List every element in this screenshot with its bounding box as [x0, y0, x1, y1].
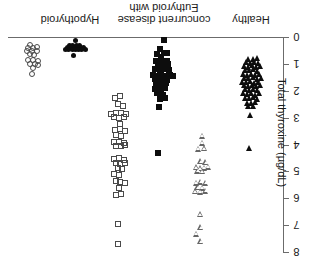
data-point — [156, 104, 162, 110]
data-point — [115, 241, 121, 247]
category-label-healthy: Healthy — [216, 14, 286, 26]
data-point — [200, 133, 206, 139]
data-point — [201, 145, 207, 151]
category-label-euthyroid: concurrent disease Euthyroid with — [112, 2, 216, 26]
data-point — [203, 188, 209, 194]
data-point — [63, 47, 68, 52]
data-point — [115, 221, 121, 227]
data-point — [200, 168, 206, 174]
category-label-line1: Healthy — [216, 14, 286, 26]
data-point — [116, 185, 122, 191]
category-label-line1: Euthyroid with — [112, 2, 216, 14]
data-point — [193, 231, 199, 237]
data-point — [162, 85, 168, 91]
data-point — [122, 180, 128, 186]
data-point — [197, 211, 203, 217]
data-point — [164, 50, 170, 56]
data-point — [205, 164, 211, 170]
data-point — [246, 145, 252, 151]
data-point — [250, 103, 256, 109]
data-point — [35, 62, 41, 68]
y-tick-label: 2 — [291, 85, 302, 96]
data-point — [83, 47, 88, 52]
data-point — [155, 150, 161, 156]
y-axis-title: Total thyroxine (µg/dL) — [276, 78, 288, 228]
data-point — [121, 114, 127, 120]
thyroxine-dot-plot: 012345678 Total thyroxine (µg/dL) Hypoth… — [0, 0, 319, 261]
data-point — [161, 37, 167, 43]
data-point — [118, 191, 124, 197]
category-label-line1: Hypothyroid — [28, 14, 112, 26]
category-label-line2: concurrent disease — [112, 14, 216, 26]
y-tick-label: 6 — [291, 192, 302, 203]
data-point — [29, 71, 35, 77]
data-point — [198, 224, 204, 230]
y-tick — [283, 252, 289, 253]
data-point — [170, 73, 176, 79]
zero-baseline — [8, 37, 283, 38]
category-label-hypothyroid: Hypothyroid — [28, 14, 112, 26]
data-point — [198, 238, 204, 244]
data-point — [73, 38, 78, 43]
y-tick-label: 3 — [291, 112, 302, 123]
data-point — [162, 95, 168, 101]
data-point — [117, 93, 123, 99]
y-tick-label: 4 — [291, 139, 302, 150]
y-tick — [283, 64, 289, 65]
data-point — [247, 112, 253, 118]
data-point — [120, 103, 126, 109]
y-tick — [283, 37, 289, 38]
data-point — [122, 142, 128, 148]
data-point — [71, 53, 76, 58]
y-tick-label: 0 — [291, 31, 302, 42]
y-tick-label: 7 — [291, 219, 302, 230]
y-tick-label: 1 — [291, 58, 302, 69]
y-tick-label: 5 — [291, 165, 302, 176]
y-tick-label: 8 — [291, 246, 302, 257]
